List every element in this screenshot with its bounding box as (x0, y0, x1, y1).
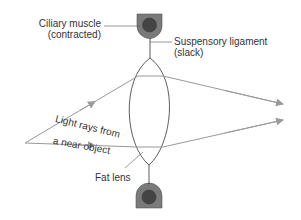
ciliary-muscle-label: Ciliary muscle (contracted) (30, 18, 101, 40)
bottom-ciliary-muscle (136, 183, 162, 208)
top-ciliary-muscle (137, 14, 162, 39)
ligament-label: Suspensory ligament (slack) (174, 36, 267, 58)
ligament-text: Suspensory ligament (174, 36, 267, 47)
fat-lens (129, 58, 169, 165)
ciliary-state-text: (contracted) (30, 29, 101, 40)
ciliary-muscle-text: Ciliary muscle (30, 18, 101, 29)
lens-label: Fat lens (95, 172, 131, 183)
ligament-state-text: (slack) (174, 47, 267, 58)
